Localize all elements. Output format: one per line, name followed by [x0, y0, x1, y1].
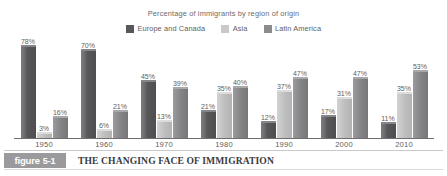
legend-item-europe-and-canada: Europe and Canada: [126, 24, 205, 33]
legend-label: Europe and Canada: [137, 24, 205, 33]
bar-top-face: [21, 45, 36, 47]
bar-top-face: [217, 92, 232, 94]
bar-group-1990: 12% 37% 47%: [254, 38, 314, 138]
legend-swatch-icon: [126, 25, 134, 33]
x-tick-label: 1960: [74, 140, 134, 149]
bar-wrap: 11%: [381, 38, 396, 138]
x-tick-label: 2010: [374, 140, 434, 149]
x-tick-label: 2000: [314, 140, 374, 149]
bar-group-1960: 70% 6% 21%: [74, 38, 134, 138]
legend-item-latin-america: Latin America: [264, 24, 322, 33]
bar-top-face: [201, 110, 216, 112]
bar-wrap: 17%: [321, 38, 336, 138]
bar-asia: [277, 92, 292, 138]
x-axis-labels: 1950 1960 1970 1980 1990 2000 2010: [14, 140, 434, 149]
bar-wrap: 53%: [413, 38, 428, 138]
bar-europe-and-canada: [201, 112, 216, 138]
bar-latin-america: [173, 89, 188, 138]
bar-wrap: 16%: [53, 38, 68, 138]
bar-groups: 78% 3% 16% 70% 6%: [14, 38, 434, 138]
figure-number-badge: figure 5-1: [4, 153, 66, 168]
bar-top-face: [381, 122, 396, 124]
bar-latin-america: [113, 112, 128, 138]
figure-number-label: 5-1: [43, 156, 56, 166]
bar-top-face: [233, 86, 248, 88]
legend-label: Asia: [233, 24, 248, 33]
legend-item-asia: Asia: [221, 24, 247, 33]
bar-wrap: 70%: [81, 38, 96, 138]
bar-top-face: [397, 92, 412, 94]
bar-wrap: 35%: [397, 38, 412, 138]
bar-latin-america: [413, 72, 428, 138]
bar-top-face: [353, 77, 368, 79]
bar-asia: [97, 131, 112, 139]
figure-container: Percentage of immigrants by region of or…: [0, 0, 447, 176]
bar-wrap: 3%: [37, 38, 52, 138]
bar-wrap: 40%: [233, 38, 248, 138]
figure-caption-text: THE CHANGING FACE OF IMMIGRATION: [78, 155, 274, 166]
bar-asia: [337, 99, 352, 138]
x-axis-line: [14, 138, 434, 139]
bar-europe-and-canada: [141, 82, 156, 138]
x-tick-label: 1980: [194, 140, 254, 149]
bar-wrap: 21%: [201, 38, 216, 138]
chart-title: Percentage of immigrants by region of or…: [0, 9, 447, 18]
bar-wrap: 47%: [353, 38, 368, 138]
x-tick-label: 1970: [134, 140, 194, 149]
bar-group-1950: 78% 3% 16%: [14, 38, 74, 138]
bar-latin-america: [293, 79, 308, 138]
bar-asia: [217, 94, 232, 138]
bar-top-face: [173, 87, 188, 89]
bar-wrap: 39%: [173, 38, 188, 138]
bar-top-face: [157, 120, 172, 122]
bar-top-face: [53, 116, 68, 118]
bar-europe-and-canada: [321, 117, 336, 138]
bar-asia: [397, 94, 412, 138]
bar-top-face: [81, 49, 96, 51]
bar-top-face: [37, 132, 52, 134]
bar-top-face: [277, 90, 292, 92]
bar-wrap: 37%: [277, 38, 292, 138]
bar-wrap: 13%: [157, 38, 172, 138]
bar-europe-and-canada: [81, 51, 96, 139]
bar-top-face: [113, 110, 128, 112]
plot-area: 78% 3% 16% 70% 6%: [14, 38, 434, 138]
bar-wrap: 35%: [217, 38, 232, 138]
bar-wrap: 6%: [97, 38, 112, 138]
bar-europe-and-canada: [261, 123, 276, 138]
bar-group-2000: 17% 31% 47%: [314, 38, 374, 138]
caption-bottom-divider: [4, 169, 443, 170]
caption-top-divider: [4, 150, 443, 151]
x-tick-label: 1950: [14, 140, 74, 149]
chart-legend: Europe and Canada Asia Latin America: [0, 24, 447, 33]
bar-group-1970: 45% 13% 39%: [134, 38, 194, 138]
bar-europe-and-canada: [381, 124, 396, 138]
bar-latin-america: [353, 79, 368, 138]
bar-latin-america: [233, 88, 248, 138]
x-tick-label: 1990: [254, 140, 314, 149]
bar-europe-and-canada: [21, 47, 36, 138]
bar-top-face: [141, 80, 156, 82]
bar-top-face: [337, 97, 352, 99]
figure-caption: figure 5-1 THE CHANGING FACE OF IMMIGRAT…: [4, 152, 443, 169]
bar-wrap: 12%: [261, 38, 276, 138]
bar-top-face: [293, 77, 308, 79]
bar-asia: [157, 122, 172, 138]
bar-wrap: 21%: [113, 38, 128, 138]
bar-group-2010: 11% 35% 53%: [374, 38, 434, 138]
bar-wrap: 31%: [337, 38, 352, 138]
legend-label: Latin America: [275, 24, 321, 33]
figure-word-label: figure: [15, 155, 40, 166]
bar-top-face: [261, 121, 276, 123]
bar-group-1980: 21% 35% 40%: [194, 38, 254, 138]
bar-wrap: 45%: [141, 38, 156, 138]
bar-top-face: [97, 129, 112, 131]
bar-wrap: 78%: [21, 38, 36, 138]
bar-top-face: [413, 70, 428, 72]
bar-wrap: 47%: [293, 38, 308, 138]
bar-latin-america: [53, 118, 68, 138]
legend-swatch-icon: [221, 25, 229, 33]
bar-top-face: [321, 115, 336, 117]
legend-swatch-icon: [264, 25, 272, 33]
